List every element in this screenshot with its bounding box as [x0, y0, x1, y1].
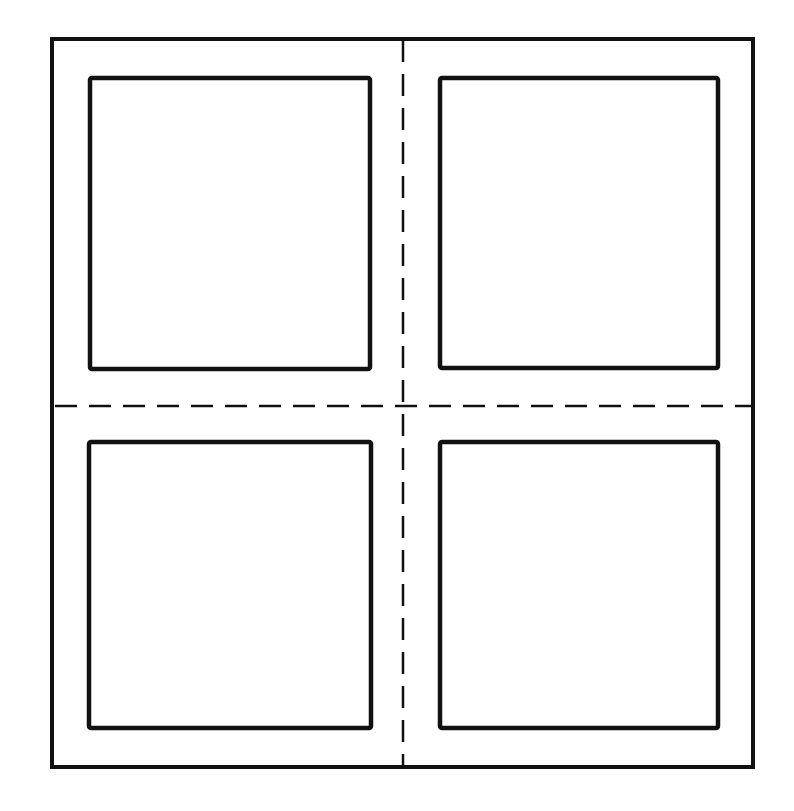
window-diagram: [0, 0, 794, 811]
pane-top-left: [90, 78, 370, 369]
pane-bottom-right: [440, 442, 718, 728]
pane-top-right: [440, 78, 718, 368]
pane-bottom-left: [89, 442, 371, 728]
